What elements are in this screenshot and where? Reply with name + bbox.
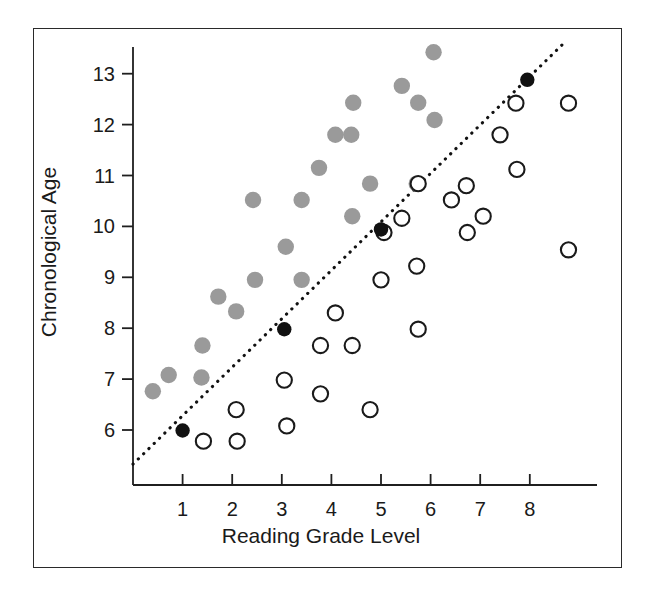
data-points-group: [145, 44, 576, 449]
data-point-open-circle: [476, 209, 491, 224]
data-point-gray-circle: [293, 272, 309, 288]
data-point-open-circle: [444, 192, 459, 207]
y-tick-label: 12: [93, 114, 115, 136]
data-point-gray-circle: [311, 160, 327, 176]
data-point-gray-circle: [410, 95, 426, 111]
data-point-open-circle: [313, 386, 328, 401]
data-point-gray-circle: [161, 367, 177, 383]
data-point-gray-circle: [245, 192, 261, 208]
data-point-open-circle: [196, 434, 211, 449]
y-tick-label: 10: [93, 215, 115, 237]
data-point-open-circle: [229, 402, 244, 417]
data-point-gray-circle: [343, 127, 359, 143]
y-tick-label: 8: [104, 317, 115, 339]
data-point-gray-circle: [362, 175, 378, 191]
data-point-open-circle: [230, 434, 245, 449]
data-point-gray-circle: [194, 337, 210, 353]
data-point-open-circle: [328, 305, 343, 320]
y-tick-label: 7: [104, 368, 115, 390]
figure-container: 67891011121312345678 Reading Grade Level…: [0, 0, 650, 609]
x-tick-label: 1: [177, 498, 188, 520]
data-point-gray-circle: [345, 95, 361, 111]
x-tick-label: 6: [425, 498, 436, 520]
data-point-open-circle: [460, 225, 475, 240]
data-point-open-circle: [561, 96, 576, 111]
data-point-black-circle: [175, 423, 189, 437]
axes-group: [133, 47, 597, 485]
x-tick-label: 4: [326, 498, 337, 520]
data-point-open-circle: [411, 322, 426, 337]
data-point-gray-circle: [344, 208, 360, 224]
y-tick-label: 9: [104, 266, 115, 288]
data-point-black-circle: [277, 322, 291, 336]
data-point-gray-circle: [327, 127, 343, 143]
data-point-gray-circle: [247, 272, 263, 288]
data-point-gray-circle: [228, 303, 244, 319]
data-point-gray-circle: [293, 192, 309, 208]
data-point-gray-circle: [425, 44, 441, 60]
x-axis-title: Reading Grade Level: [222, 524, 420, 547]
data-point-gray-circle: [426, 112, 442, 128]
data-point-open-circle: [277, 373, 292, 388]
data-point-open-circle: [459, 178, 474, 193]
data-point-open-circle: [508, 96, 523, 111]
data-point-open-circle: [561, 242, 576, 257]
data-point-gray-circle: [210, 288, 226, 304]
tick-marks-group: [122, 74, 530, 485]
x-tick-label: 3: [276, 498, 287, 520]
data-point-gray-circle: [278, 239, 294, 255]
y-tick-label: 6: [104, 419, 115, 441]
data-point-open-circle: [373, 272, 388, 287]
data-point-open-circle: [394, 211, 409, 226]
tick-labels-group: 67891011121312345678: [93, 63, 536, 520]
data-point-open-circle: [362, 402, 377, 417]
data-point-gray-circle: [193, 369, 209, 385]
series-on-reference: [175, 73, 534, 438]
data-point-open-circle: [409, 259, 424, 274]
data-point-open-circle: [411, 176, 426, 191]
data-point-black-circle: [374, 222, 388, 236]
y-axis-title: Chronological Age: [37, 167, 60, 337]
data-point-black-circle: [520, 73, 534, 87]
x-tick-label: 5: [375, 498, 386, 520]
data-point-gray-circle: [394, 78, 410, 94]
data-point-open-circle: [279, 418, 294, 433]
x-tick-label: 8: [524, 498, 535, 520]
x-tick-label: 2: [227, 498, 238, 520]
data-point-open-circle: [313, 338, 328, 353]
scatter-plot: 67891011121312345678 Reading Grade Level…: [0, 0, 650, 609]
x-tick-label: 7: [475, 498, 486, 520]
data-point-open-circle: [509, 162, 524, 177]
data-point-open-circle: [492, 127, 507, 142]
data-point-open-circle: [345, 338, 360, 353]
y-tick-label: 13: [93, 63, 115, 85]
data-point-gray-circle: [145, 383, 161, 399]
y-tick-label: 11: [94, 165, 115, 187]
